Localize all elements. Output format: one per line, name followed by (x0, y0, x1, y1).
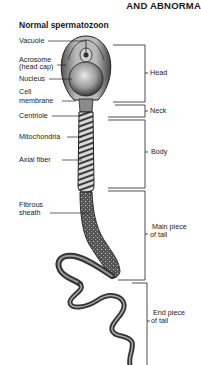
label-end-piece-sub: of tail (151, 317, 168, 326)
label-vacuole: Vacuole (19, 37, 44, 46)
label-axial-fiber: Axial fiber (19, 156, 51, 165)
label-neck: Neck (150, 107, 166, 116)
label-mitochondria: Mitochondria (19, 133, 60, 142)
label-acrosome-sub: (head cap) (19, 63, 53, 72)
label-nucleus: Nucleus (19, 75, 45, 84)
label-fibrous-sheath: sheath (19, 209, 41, 218)
label-main-piece-sub: of tail (150, 231, 167, 240)
label-cell-membrane: membrane (19, 97, 53, 106)
label-centriole: Centriole (19, 112, 48, 121)
label-body: Body (151, 148, 167, 157)
head-shape (61, 36, 111, 100)
label-head: Head (150, 69, 167, 78)
